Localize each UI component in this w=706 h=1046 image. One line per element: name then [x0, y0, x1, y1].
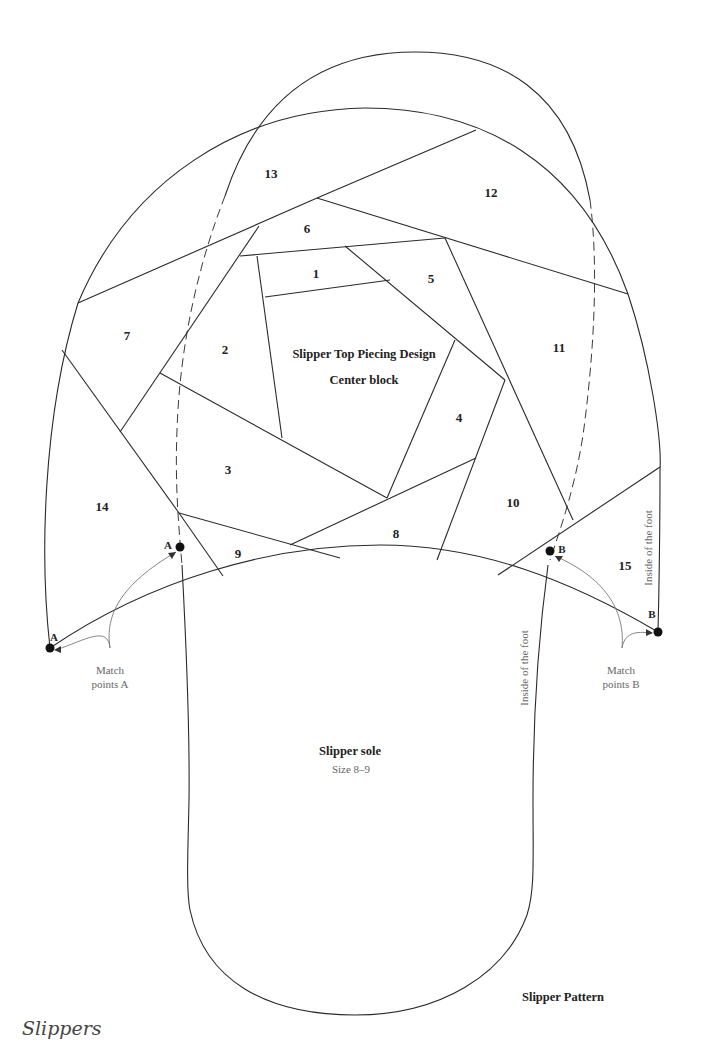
- center-block-label: Center block: [330, 373, 399, 387]
- piece-label-7: 7: [124, 328, 131, 343]
- match-point-b-sole-label: B: [648, 608, 656, 620]
- match-points: A A B B: [46, 539, 663, 653]
- piece-label-10: 10: [507, 495, 520, 510]
- slipper-sole-size: Size 8–9: [332, 763, 371, 775]
- arrow-a-to-top: [109, 552, 176, 648]
- sole-outline: [176, 52, 594, 1015]
- piece-label-8: 8: [393, 526, 400, 541]
- piece-label-12: 12: [485, 185, 498, 200]
- slipper-sole-title: Slipper sole: [319, 744, 381, 758]
- piece-label-11: 11: [553, 340, 565, 355]
- piece-label-13: 13: [265, 166, 279, 181]
- arrow-a-to-sole: [56, 636, 110, 650]
- piece-label-2: 2: [222, 342, 229, 357]
- piece-label-5: 5: [428, 271, 435, 286]
- match-point-b-top: [546, 547, 555, 556]
- match-point-a-sole: [46, 644, 55, 653]
- match-note-a-line1: Match: [96, 664, 125, 676]
- piece-label-6: 6: [304, 221, 311, 236]
- match-point-b-top-label: B: [558, 543, 566, 555]
- match-note-b-line1: Match: [607, 664, 636, 676]
- match-note-b-line2: points B: [603, 678, 640, 690]
- inside-of-foot-label-top: Inside of the foot: [642, 510, 654, 585]
- piece-label-9: 9: [235, 546, 242, 561]
- piece-label-15: 15: [619, 558, 633, 573]
- match-point-b-sole: [654, 628, 663, 637]
- arrow-b-to-top: [555, 556, 622, 648]
- piece-label-1: 1: [313, 266, 320, 281]
- page-header-slippers: Slippers: [22, 1017, 102, 1039]
- match-note-a-line2: points A: [92, 678, 129, 690]
- inside-of-foot-label-sole: Inside of the foot: [518, 630, 530, 705]
- piece-label-14: 14: [96, 499, 110, 514]
- piece-numbers: 1 2 3 4 5 6 7 8 9 10 11 12 13 14 15: [96, 166, 633, 573]
- piece-label-3: 3: [225, 462, 232, 477]
- piecing-design-title: Slipper Top Piecing Design: [292, 347, 435, 361]
- match-point-a-top-label: A: [164, 539, 172, 551]
- piece-label-4: 4: [456, 410, 463, 425]
- slipper-pattern-diagram: 1 2 3 4 5 6 7 8 9 10 11 12 13 14 15 Slip…: [0, 0, 706, 1046]
- match-point-a-top: [176, 543, 185, 552]
- arrowhead-b-sole: [646, 629, 653, 636]
- match-point-a-sole-label: A: [50, 631, 58, 643]
- slipper-pattern-caption: Slipper Pattern: [522, 990, 604, 1004]
- arrowhead-a-top: [168, 552, 176, 559]
- match-arrows: [54, 552, 653, 653]
- arrowhead-a-sole: [54, 646, 61, 653]
